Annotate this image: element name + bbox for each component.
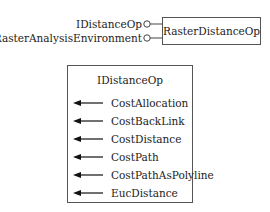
interface-label-irasteranalysisenvironment: IRasterAnalysisEnvironment <box>0 32 142 44</box>
method-arrow-icon <box>73 170 103 180</box>
method-arrow-icon <box>73 152 103 162</box>
method-label: CostBackLink <box>111 115 185 127</box>
method-arrow-icon <box>73 188 103 198</box>
coclass-box: RasterDistanceOp <box>162 17 261 45</box>
method-arrow-icon <box>73 134 103 144</box>
method-label: EucDistance <box>111 187 178 199</box>
method-arrow-icon <box>73 116 103 126</box>
method-arrow-icon <box>73 98 103 108</box>
method-label: CostDistance <box>111 133 181 145</box>
method-row: CostDistance <box>68 132 181 146</box>
method-row: CostBackLink <box>68 114 185 128</box>
interface-box: IDistanceOp CostAllocation CostBackLink … <box>67 65 193 203</box>
interface-box-title: IDistanceOp <box>68 74 192 86</box>
lollipop-idistanceop-icon <box>144 21 150 27</box>
method-row: EucDistance <box>68 186 178 200</box>
method-label: CostPathAsPolyline <box>111 169 214 181</box>
lollipop-irasteranalysisenv-icon <box>144 35 150 41</box>
method-row: CostPathAsPolyline <box>68 168 214 182</box>
interface-label-idistanceop: IDistanceOp <box>76 18 142 30</box>
method-row: CostPath <box>68 150 159 164</box>
method-label: CostAllocation <box>111 97 188 109</box>
method-row: CostAllocation <box>68 96 188 110</box>
coclass-name: RasterDistanceOp <box>163 25 260 37</box>
method-label: CostPath <box>111 151 159 163</box>
